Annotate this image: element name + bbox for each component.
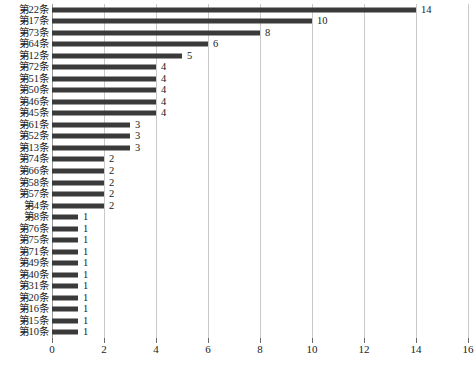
category-label: 第40条 bbox=[19, 269, 50, 280]
bar bbox=[52, 318, 78, 323]
category-label: 第31条 bbox=[19, 281, 50, 292]
bar bbox=[52, 65, 156, 70]
category-label: 第49条 bbox=[19, 258, 50, 269]
bar bbox=[52, 192, 104, 197]
bar bbox=[52, 122, 130, 127]
category-label: 第13条 bbox=[19, 143, 50, 154]
bar bbox=[52, 99, 156, 104]
bar-row: 第73条8 bbox=[52, 27, 468, 39]
bar bbox=[52, 30, 260, 35]
category-label: 第12条 bbox=[19, 51, 50, 62]
bar bbox=[52, 7, 416, 12]
bar bbox=[52, 19, 312, 24]
bar-value-label: 2 bbox=[109, 154, 114, 165]
bar bbox=[52, 203, 104, 208]
bar bbox=[52, 42, 208, 47]
bar-row: 第15条1 bbox=[52, 315, 468, 327]
bar-value-label: 1 bbox=[83, 315, 88, 326]
bar-value-label: 5 bbox=[187, 51, 192, 62]
category-label: 第20条 bbox=[19, 292, 50, 303]
x-tick-label: 4 bbox=[153, 344, 159, 355]
bar bbox=[52, 111, 156, 116]
bar-row: 第50条4 bbox=[52, 85, 468, 97]
bar-value-label: 1 bbox=[83, 258, 88, 269]
bar-row: 第75条1 bbox=[52, 234, 468, 246]
bar bbox=[52, 284, 78, 289]
x-tick-label: 14 bbox=[411, 344, 422, 355]
bar bbox=[52, 307, 78, 312]
category-label: 第76条 bbox=[19, 223, 50, 234]
category-label: 第72条 bbox=[19, 62, 50, 73]
bar-value-label: 1 bbox=[83, 246, 88, 257]
bar-row: 第16条1 bbox=[52, 303, 468, 315]
category-label: 第52条 bbox=[19, 131, 50, 142]
category-label: 第58条 bbox=[19, 177, 50, 188]
bar bbox=[52, 330, 78, 335]
category-label: 第73条 bbox=[19, 28, 50, 39]
bar-row: 第22条14 bbox=[52, 4, 468, 16]
category-label: 第75条 bbox=[19, 235, 50, 246]
bar-row: 第51条4 bbox=[52, 73, 468, 85]
bar bbox=[52, 215, 78, 220]
bar-row: 第71条1 bbox=[52, 246, 468, 258]
bar bbox=[52, 180, 104, 185]
bar-value-label: 4 bbox=[161, 62, 166, 73]
category-label: 第4条 bbox=[24, 200, 49, 211]
bar-row: 第13条3 bbox=[52, 142, 468, 154]
bar-row: 第8条1 bbox=[52, 211, 468, 223]
bar-row: 第64条6 bbox=[52, 39, 468, 51]
bar bbox=[52, 238, 78, 243]
category-label: 第10条 bbox=[19, 327, 50, 338]
x-tick-label: 2 bbox=[101, 344, 107, 355]
bar bbox=[52, 76, 156, 81]
bar-value-label: 3 bbox=[135, 131, 140, 142]
bar-value-label: 8 bbox=[265, 28, 270, 39]
bar-chart-figure: 第22条14第17条10第73条8第64条6第12条5第72条4第51条4第50… bbox=[0, 0, 475, 367]
plot-area: 第22条14第17条10第73条8第64条6第12条5第72条4第51条4第50… bbox=[52, 4, 468, 338]
category-label: 第61条 bbox=[19, 120, 50, 131]
bar-row: 第76条1 bbox=[52, 223, 468, 235]
bar-row: 第10条1 bbox=[52, 326, 468, 338]
category-label: 第17条 bbox=[19, 16, 50, 27]
bar-row: 第74条2 bbox=[52, 154, 468, 166]
category-label: 第66条 bbox=[19, 166, 50, 177]
bar-value-label: 1 bbox=[83, 269, 88, 280]
bar bbox=[52, 226, 78, 231]
bar-value-label: 2 bbox=[109, 200, 114, 211]
bar bbox=[52, 272, 78, 277]
bar bbox=[52, 157, 104, 162]
x-tick-label: 0 bbox=[49, 344, 55, 355]
bar-row: 第66条2 bbox=[52, 165, 468, 177]
bar-row: 第45条4 bbox=[52, 108, 468, 120]
x-tick-label: 12 bbox=[359, 344, 370, 355]
x-axis: 0246810121416 bbox=[52, 338, 468, 358]
bar bbox=[52, 249, 78, 254]
category-label: 第57条 bbox=[19, 189, 50, 200]
category-label: 第64条 bbox=[19, 39, 50, 50]
category-label: 第46条 bbox=[19, 97, 50, 108]
bar-value-label: 1 bbox=[83, 292, 88, 303]
bar-value-label: 3 bbox=[135, 143, 140, 154]
bar-value-label: 2 bbox=[109, 166, 114, 177]
bar-value-label: 2 bbox=[109, 189, 114, 200]
bar-value-label: 1 bbox=[83, 327, 88, 338]
bar bbox=[52, 88, 156, 93]
bar bbox=[52, 295, 78, 300]
category-label: 第16条 bbox=[19, 304, 50, 315]
figure-caption bbox=[0, 359, 475, 367]
bar-value-label: 6 bbox=[213, 39, 218, 50]
bar-value-label: 4 bbox=[161, 108, 166, 119]
bar-value-label: 1 bbox=[83, 235, 88, 246]
bar-value-label: 3 bbox=[135, 120, 140, 131]
bar-value-label: 2 bbox=[109, 177, 114, 188]
bar-row: 第4条2 bbox=[52, 200, 468, 212]
bar-value-label: 4 bbox=[161, 97, 166, 108]
bar-row: 第58条2 bbox=[52, 177, 468, 189]
bar-value-label: 1 bbox=[83, 281, 88, 292]
bar-row: 第17条10 bbox=[52, 16, 468, 28]
bar-row: 第46条4 bbox=[52, 96, 468, 108]
category-label: 第74条 bbox=[19, 154, 50, 165]
bar-value-label: 10 bbox=[317, 16, 328, 27]
gridline-16 bbox=[468, 4, 469, 338]
category-label: 第50条 bbox=[19, 85, 50, 96]
